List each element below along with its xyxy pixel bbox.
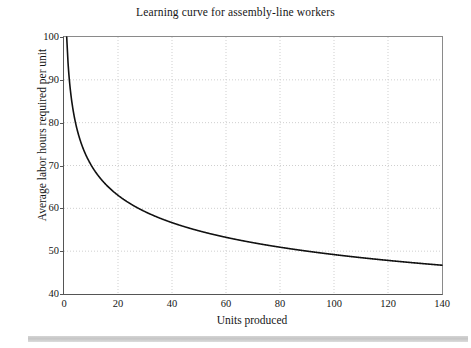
- xtick-label-80: 80: [275, 299, 286, 310]
- learning-curve-line: [64, 37, 442, 294]
- ytick-mark-50: [60, 251, 64, 252]
- xtick-label-40: 40: [167, 299, 178, 310]
- xtick-label-140: 140: [434, 299, 450, 310]
- ytick-label-70: 70: [49, 160, 60, 171]
- ytick-mark-90: [60, 80, 64, 81]
- y-axis-title: Average labor hours required per unit: [36, 15, 48, 255]
- ytick-label-90: 90: [49, 75, 60, 86]
- figure-container: Learning curve for assembly-line workers: [0, 0, 471, 348]
- footer-rule: [28, 336, 468, 342]
- ytick-label-60: 60: [49, 203, 60, 214]
- plot-area: 100 90 80 70 60 50 40 0 20 40 60 80 100 …: [63, 36, 443, 295]
- chart-title: Learning curve for assembly-line workers: [0, 6, 471, 18]
- ytick-label-80: 80: [49, 117, 60, 128]
- xtick-label-100: 100: [326, 299, 342, 310]
- x-axis-title: Units produced: [63, 314, 441, 326]
- xtick-label-120: 120: [380, 299, 396, 310]
- ytick-label-50: 50: [49, 246, 60, 257]
- ytick-mark-80: [60, 123, 64, 124]
- xtick-label-60: 60: [221, 299, 232, 310]
- ytick-mark-60: [60, 208, 64, 209]
- ytick-label-40: 40: [49, 289, 60, 300]
- ytick-mark-100: [60, 37, 64, 38]
- ytick-mark-70: [60, 166, 64, 167]
- xtick-label-0: 0: [61, 299, 66, 310]
- xtick-label-20: 20: [113, 299, 124, 310]
- curve-path: [67, 37, 442, 265]
- ytick-mark-40: [60, 294, 64, 295]
